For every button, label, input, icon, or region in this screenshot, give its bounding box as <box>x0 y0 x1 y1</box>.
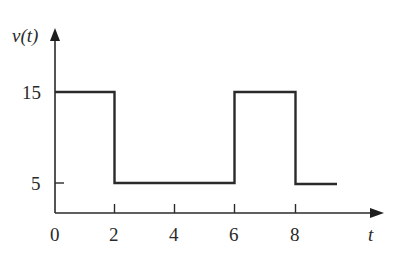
y-tick-label-15: 15 <box>22 82 41 103</box>
y-axis-label: v(t) <box>12 25 38 47</box>
y-axis-arrow-icon <box>50 28 60 41</box>
x-tick-label-4: 4 <box>169 224 179 245</box>
x-axis-arrow-icon <box>370 208 384 218</box>
x-tick-label-6: 6 <box>229 224 239 245</box>
x-tick-label-2: 2 <box>109 224 119 245</box>
x-axis-label: t <box>368 224 374 245</box>
x-tick-label-8: 8 <box>290 224 300 245</box>
chart-canvas: v(t) 15 5 0 2 4 6 8 t <box>0 0 406 257</box>
waveform-series <box>55 92 337 184</box>
y-tick-label-5: 5 <box>31 173 41 194</box>
x-tick-label-0: 0 <box>50 224 60 245</box>
